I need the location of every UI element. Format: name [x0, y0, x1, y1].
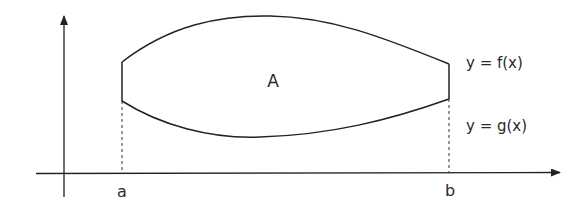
lower-curve-g [122, 99, 449, 137]
upper-curve-label: y = f(x) [466, 54, 523, 72]
upper-curve-f [122, 16, 449, 64]
left-bound-label: a [117, 182, 127, 201]
x-axis [36, 173, 560, 174]
region-label: A [267, 71, 279, 91]
area-between-curves-diagram: A y = f(x) y = g(x) a b [0, 0, 586, 207]
right-bound-label: b [445, 181, 455, 200]
lower-curve-label: y = g(x) [466, 117, 527, 135]
